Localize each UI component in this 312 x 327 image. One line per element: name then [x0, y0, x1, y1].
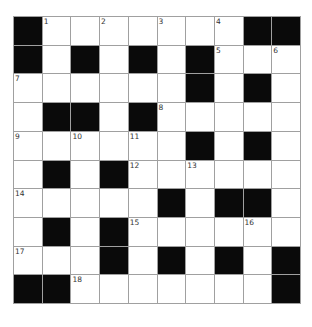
- answer-cell[interactable]: [215, 275, 244, 304]
- answer-cell[interactable]: [100, 103, 129, 132]
- answer-cell[interactable]: [129, 74, 158, 103]
- answer-cell[interactable]: 4: [215, 17, 244, 46]
- answer-cell[interactable]: 17: [14, 247, 43, 276]
- answer-cell[interactable]: [186, 218, 215, 247]
- answer-cell[interactable]: [100, 275, 129, 304]
- black-cell: [43, 103, 72, 132]
- answer-cell[interactable]: [244, 275, 273, 304]
- clue-number: 13: [187, 162, 197, 170]
- black-cell: [244, 17, 273, 46]
- answer-cell[interactable]: [100, 74, 129, 103]
- answer-cell[interactable]: [158, 161, 187, 190]
- clue-number: 12: [130, 162, 140, 170]
- answer-cell[interactable]: [129, 189, 158, 218]
- black-cell: [129, 46, 158, 75]
- clue-number: 1: [44, 18, 49, 26]
- clue-number: 18: [72, 276, 82, 284]
- black-cell: [215, 189, 244, 218]
- answer-cell[interactable]: [215, 103, 244, 132]
- black-cell: [272, 17, 301, 46]
- answer-cell[interactable]: [43, 46, 72, 75]
- answer-cell[interactable]: [215, 74, 244, 103]
- answer-cell[interactable]: [244, 247, 273, 276]
- answer-cell[interactable]: [186, 247, 215, 276]
- black-cell: [186, 74, 215, 103]
- answer-cell[interactable]: [71, 161, 100, 190]
- answer-cell[interactable]: 16: [244, 218, 273, 247]
- answer-cell[interactable]: [129, 17, 158, 46]
- answer-cell[interactable]: 14: [14, 189, 43, 218]
- answer-cell[interactable]: [14, 218, 43, 247]
- clue-number: 6: [273, 47, 278, 55]
- answer-cell[interactable]: [158, 218, 187, 247]
- answer-cell[interactable]: [71, 17, 100, 46]
- clue-number: 16: [245, 219, 255, 227]
- clue-number: 10: [72, 133, 82, 141]
- black-cell: [43, 275, 72, 304]
- answer-cell[interactable]: [71, 74, 100, 103]
- answer-cell[interactable]: [215, 218, 244, 247]
- answer-cell[interactable]: [14, 103, 43, 132]
- answer-cell[interactable]: [43, 132, 72, 161]
- answer-cell[interactable]: 6: [272, 46, 301, 75]
- answer-cell[interactable]: [71, 247, 100, 276]
- clue-number: 7: [15, 75, 20, 83]
- clue-number: 17: [15, 248, 25, 256]
- answer-cell[interactable]: 10: [71, 132, 100, 161]
- answer-cell[interactable]: [100, 46, 129, 75]
- black-cell: [272, 247, 301, 276]
- answer-cell[interactable]: [215, 161, 244, 190]
- black-cell: [43, 218, 72, 247]
- answer-cell[interactable]: [244, 161, 273, 190]
- answer-cell[interactable]: 13: [186, 161, 215, 190]
- answer-cell[interactable]: [129, 275, 158, 304]
- answer-cell[interactable]: 1: [43, 17, 72, 46]
- answer-cell[interactable]: [186, 189, 215, 218]
- answer-cell[interactable]: [186, 103, 215, 132]
- answer-cell[interactable]: [272, 189, 301, 218]
- answer-cell[interactable]: 15: [129, 218, 158, 247]
- answer-cell[interactable]: [244, 46, 273, 75]
- answer-cell[interactable]: 11: [129, 132, 158, 161]
- answer-cell[interactable]: [158, 275, 187, 304]
- answer-cell[interactable]: [272, 132, 301, 161]
- answer-cell[interactable]: 8: [158, 103, 187, 132]
- answer-cell[interactable]: [272, 218, 301, 247]
- answer-cell[interactable]: [100, 132, 129, 161]
- clue-number: 11: [130, 133, 140, 141]
- answer-cell[interactable]: [100, 189, 129, 218]
- answer-cell[interactable]: [158, 46, 187, 75]
- answer-cell[interactable]: 5: [215, 46, 244, 75]
- answer-cell[interactable]: [215, 132, 244, 161]
- answer-cell[interactable]: [244, 103, 273, 132]
- black-cell: [100, 218, 129, 247]
- answer-cell[interactable]: [272, 103, 301, 132]
- black-cell: [244, 74, 273, 103]
- black-cell: [100, 161, 129, 190]
- clue-number: 9: [15, 133, 20, 141]
- answer-cell[interactable]: [71, 218, 100, 247]
- answer-cell[interactable]: 18: [71, 275, 100, 304]
- answer-cell[interactable]: [158, 74, 187, 103]
- answer-cell[interactable]: [272, 74, 301, 103]
- answer-cell[interactable]: [186, 275, 215, 304]
- black-cell: [244, 132, 273, 161]
- answer-cell[interactable]: [186, 17, 215, 46]
- black-cell: [14, 275, 43, 304]
- black-cell: [71, 46, 100, 75]
- answer-cell[interactable]: [43, 247, 72, 276]
- answer-cell[interactable]: [14, 161, 43, 190]
- answer-cell[interactable]: [272, 161, 301, 190]
- black-cell: [215, 247, 244, 276]
- answer-cell[interactable]: [71, 189, 100, 218]
- answer-cell[interactable]: [43, 74, 72, 103]
- answer-cell[interactable]: [43, 189, 72, 218]
- answer-cell[interactable]: 3: [158, 17, 187, 46]
- answer-cell[interactable]: [129, 247, 158, 276]
- answer-cell[interactable]: 12: [129, 161, 158, 190]
- answer-cell[interactable]: [158, 132, 187, 161]
- answer-cell[interactable]: 2: [100, 17, 129, 46]
- answer-cell[interactable]: 7: [14, 74, 43, 103]
- answer-cell[interactable]: 9: [14, 132, 43, 161]
- black-cell: [14, 46, 43, 75]
